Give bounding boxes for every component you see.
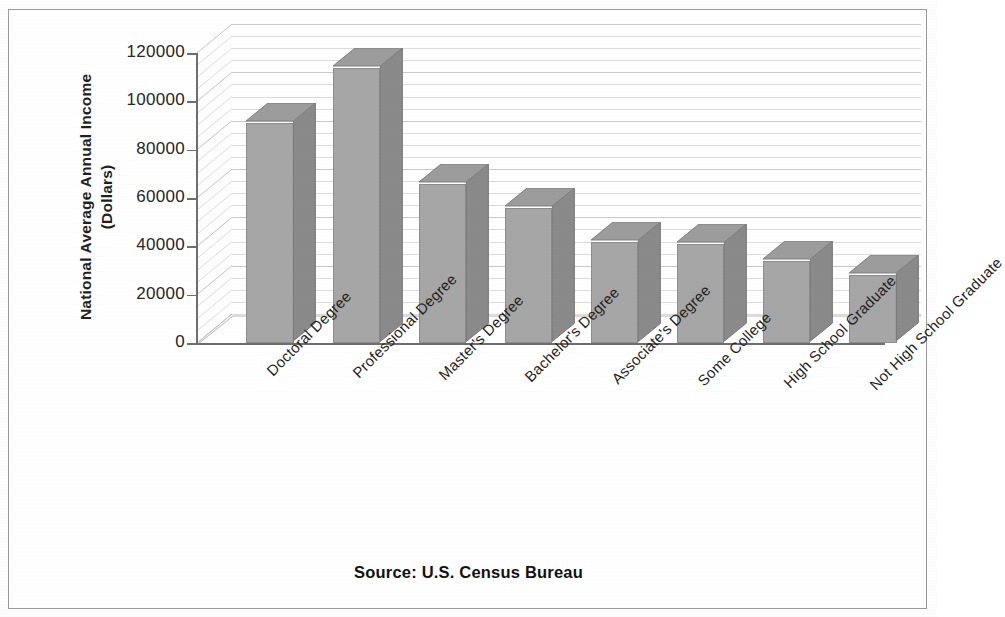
bar[interactable] xyxy=(591,224,660,344)
bar[interactable] xyxy=(419,166,488,344)
y-axis-tick-mark xyxy=(187,53,197,55)
y-axis-tick-mark xyxy=(187,150,197,152)
y-axis-tick-mark xyxy=(187,295,197,297)
bar[interactable] xyxy=(505,190,574,343)
source-caption: Source: U.S. Census Bureau xyxy=(0,563,937,582)
bar-side-face xyxy=(638,222,660,342)
bar-side-face xyxy=(466,164,488,342)
bar-side-face xyxy=(294,103,316,341)
y-axis-tick-labels: 020000400006000080000100000120000 xyxy=(85,0,185,617)
y-axis-tick-label: 100000 xyxy=(85,90,185,110)
bar[interactable] xyxy=(677,226,746,343)
bar-side-face xyxy=(724,224,746,341)
gridline-major xyxy=(232,24,921,25)
bar-side-face xyxy=(380,48,402,342)
y-axis-tick-label: 60000 xyxy=(85,187,185,207)
y-axis-tick-label: 20000 xyxy=(85,284,185,304)
y-axis-tick-label: 40000 xyxy=(85,235,185,255)
y-axis-tick-mark xyxy=(187,198,197,200)
bar[interactable] xyxy=(246,105,315,343)
y-axis-tick-label: 0 xyxy=(85,332,185,352)
left-depth-wall xyxy=(196,24,236,344)
y-axis-tick-mark xyxy=(187,101,197,103)
bar[interactable] xyxy=(763,243,832,343)
bar-side-face xyxy=(552,188,574,341)
y-axis-tick-mark xyxy=(187,343,197,345)
y-axis-tick-label: 120000 xyxy=(85,42,185,62)
y-axis-tick-mark xyxy=(187,246,197,248)
plot-area xyxy=(196,24,921,344)
gridline-minor xyxy=(232,36,921,37)
y-axis-tick-label: 80000 xyxy=(85,139,185,159)
